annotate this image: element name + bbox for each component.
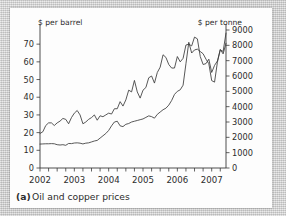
chart-figure: $ per barrel $ per tonne 010203040506070… (10, 8, 272, 208)
left-axis-tick-label: 40 (24, 92, 34, 102)
right-axis-tick-label: 2000 (232, 132, 253, 142)
x-axis-tick-label: 2007 (201, 175, 223, 185)
right-axis-tick-label: 9000 (232, 25, 253, 35)
right-axis-tick-label: 7000 (232, 56, 253, 66)
caption-text: Oil and copper prices (32, 191, 130, 202)
series-line-oil-price (40, 37, 226, 133)
right-axis-tick-label: 3000 (232, 117, 253, 127)
x-axis-tick-label: 2003 (63, 175, 85, 185)
left-axis-tick-label: 20 (24, 128, 34, 138)
left-axis-title: $ per barrel (38, 18, 82, 27)
caption-marker: (a) (16, 191, 31, 202)
right-axis-tick-label: 4000 (232, 102, 253, 112)
figure-card: $ per barrel $ per tonne 010203040506070… (10, 8, 272, 208)
x-axis-tick-label: 2002 (29, 175, 51, 185)
left-axis-tick-label: 60 (24, 57, 34, 67)
series-lines (40, 33, 226, 145)
x-axis-tick-label: 2004 (98, 175, 120, 185)
right-axis-tick-label: 6000 (232, 71, 253, 81)
left-axis: 010203040506070 (24, 24, 40, 173)
left-axis-tick-label: 30 (24, 110, 34, 120)
right-axis: 0100020003000400050006000700080009000 (226, 24, 253, 173)
right-axis-tick-label: 8000 (232, 40, 253, 50)
x-axis-tick-label: 2005 (132, 175, 154, 185)
right-axis-tick-label: 1000 (232, 148, 253, 158)
left-axis-tick-label: 50 (24, 75, 34, 85)
left-axis-tick-label: 0 (29, 163, 34, 173)
x-axis: 200220032004200520062007 (29, 168, 226, 185)
oil-copper-line-chart: $ per barrel $ per tonne 010203040506070… (10, 8, 272, 208)
left-axis-tick-label: 70 (24, 39, 34, 49)
series-line-copper-price (40, 33, 226, 145)
left-axis-tick-label: 10 (24, 145, 34, 155)
right-axis-tick-label: 0 (232, 163, 237, 173)
x-axis-tick-label: 2006 (166, 175, 188, 185)
right-axis-tick-label: 5000 (232, 86, 253, 96)
